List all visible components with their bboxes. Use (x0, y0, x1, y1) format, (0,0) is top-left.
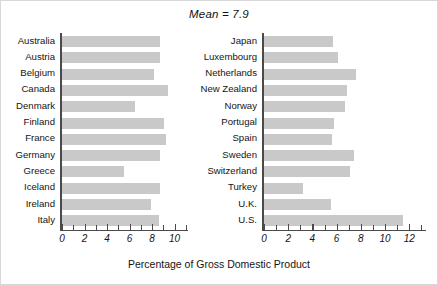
x-axis-tick (152, 224, 153, 230)
x-axis-tick-label: 10 (169, 233, 180, 244)
x-axis-tick (325, 225, 326, 230)
x-axis-tick (118, 225, 119, 230)
x-axis-tick (85, 224, 86, 230)
x-axis-tick-label: 4 (310, 233, 316, 244)
right-plot-area: 024681012 (262, 33, 438, 233)
bar (62, 199, 151, 210)
x-axis-tick (288, 224, 289, 230)
bar (62, 101, 135, 112)
category-label: Finland (0, 117, 58, 127)
category-label: Sweden (200, 150, 260, 160)
chart-title: Mean = 7.9 (0, 8, 438, 20)
category-label: Greece (0, 166, 58, 176)
bar (62, 69, 154, 80)
x-axis-tick (175, 224, 176, 230)
frame-top (0, 0, 438, 1)
category-label: U.K. (200, 199, 260, 209)
x-axis-tick (276, 225, 277, 230)
bar (264, 215, 403, 226)
x-axis-tick (141, 225, 142, 230)
category-label: France (0, 133, 58, 143)
category-label: Ireland (0, 199, 58, 209)
x-axis-tick-label: 2 (82, 233, 88, 244)
x-axis-label: Percentage of Gross Domestic Product (0, 258, 438, 270)
bar (264, 199, 331, 210)
bar (264, 134, 332, 145)
category-label: Spain (200, 133, 260, 143)
x-axis-tick (96, 225, 97, 230)
category-label: Australia (0, 36, 58, 46)
bar (62, 118, 164, 129)
x-axis-tick-label: 2 (285, 233, 291, 244)
x-axis-tick (397, 225, 398, 230)
category-label: Turkey (200, 182, 260, 192)
bar (62, 215, 159, 226)
chart-figure: Mean = 7.9 AustraliaAustriaBelgiumCanada… (0, 0, 438, 285)
bar (264, 183, 303, 194)
category-label: Canada (0, 84, 58, 94)
bar (264, 150, 354, 161)
category-label: Denmark (0, 101, 58, 111)
x-axis-line (60, 230, 188, 231)
x-axis-tick (130, 224, 131, 230)
bar (62, 36, 160, 47)
x-axis-tick (421, 225, 422, 230)
x-axis-tick (312, 224, 313, 230)
x-axis-tick-label: 0 (261, 233, 267, 244)
x-axis-tick (300, 225, 301, 230)
x-axis-tick-label: 8 (358, 233, 364, 244)
category-label: Switzerland (200, 166, 260, 176)
bar (62, 85, 168, 96)
category-label: New Zealand (200, 84, 260, 94)
category-label: Italy (0, 215, 58, 225)
x-axis-tick-label: 0 (59, 233, 65, 244)
bar (264, 52, 338, 63)
bar (264, 36, 333, 47)
bar (264, 85, 347, 96)
frame-left (0, 0, 1, 285)
x-axis-tick-label: 6 (127, 233, 133, 244)
category-label: Portugal (200, 117, 260, 127)
x-axis-tick-label: 6 (334, 233, 340, 244)
x-axis-tick (361, 224, 362, 230)
bar (62, 150, 160, 161)
x-axis-tick (337, 224, 338, 230)
x-axis-tick-label: 12 (404, 233, 415, 244)
bar (62, 166, 124, 177)
category-label: Netherlands (200, 68, 260, 78)
bar (264, 69, 356, 80)
x-axis-tick (62, 224, 63, 230)
x-axis-tick (409, 224, 410, 230)
left-plot-area: 0246810 (60, 33, 214, 233)
category-label: U.S. (200, 215, 260, 225)
x-axis-tick (349, 225, 350, 230)
category-label: Germany (0, 150, 58, 160)
x-axis-tick (186, 225, 187, 230)
x-axis-tick-label: 4 (104, 233, 110, 244)
x-axis-tick-label: 8 (149, 233, 155, 244)
category-label: Norway (200, 101, 260, 111)
bar (62, 134, 166, 145)
category-label: Belgium (0, 68, 58, 78)
bar (264, 118, 334, 129)
x-axis-tick (385, 224, 386, 230)
bar (264, 166, 350, 177)
category-label: Austria (0, 52, 58, 62)
category-label: Iceland (0, 182, 58, 192)
x-axis-tick (73, 225, 74, 230)
x-axis-tick (107, 224, 108, 230)
bar (62, 183, 160, 194)
bar (62, 52, 160, 63)
x-axis-tick (163, 225, 164, 230)
x-axis-line (262, 230, 426, 231)
category-label: Luxembourg (200, 52, 260, 62)
x-axis-tick-label: 10 (379, 233, 390, 244)
x-axis-tick (373, 225, 374, 230)
bar (264, 101, 345, 112)
category-label: Japan (200, 36, 260, 46)
x-axis-tick (264, 224, 265, 230)
